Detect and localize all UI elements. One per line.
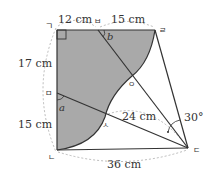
measure-left-upper: 17 cm xyxy=(18,57,53,70)
measure-diagonal: 24 cm xyxy=(122,110,157,123)
measure-bottom: 36 cm xyxy=(107,158,142,171)
point-label-n: ㄴ xyxy=(48,153,55,162)
geometry-diagram: ㄱ ㅂ ㄹ ㅁ ㅇ ㅅ ㄴ ㄷ b a 12 cm 15 cm 17 cm 15… xyxy=(0,0,213,179)
point-label-g: ㄱ xyxy=(45,21,53,31)
point-label-o: ㅇ xyxy=(128,80,135,89)
angle-label-b: b xyxy=(107,31,113,42)
measure-left-lower: 15 cm xyxy=(18,118,53,131)
point-label-d: ㄷ xyxy=(193,146,200,155)
point-label-r: ㄹ xyxy=(159,26,166,35)
point-label-m: ㅁ xyxy=(45,89,52,98)
measure-top-right: 15 cm xyxy=(111,13,146,26)
shaded-region xyxy=(57,30,155,150)
angle-dot xyxy=(167,131,169,133)
point-label-b: ㅂ xyxy=(94,17,101,26)
measure-top-left: 12 cm xyxy=(58,13,93,26)
measure-angle: 30° xyxy=(184,111,204,124)
angle-label-a: a xyxy=(59,102,65,113)
point-label-s: ㅅ xyxy=(102,121,109,130)
